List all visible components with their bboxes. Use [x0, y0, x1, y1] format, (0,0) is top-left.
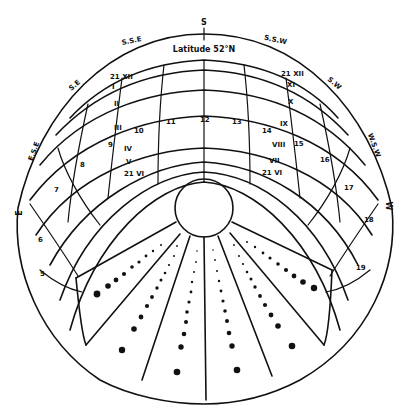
compass-s: S — [201, 18, 207, 27]
compass-sw: S.W — [326, 75, 343, 91]
hour-label-12: 12 — [200, 116, 210, 124]
month-label-iii: III — [114, 124, 122, 132]
hour-label-11: 11 — [166, 118, 176, 126]
hour-label-7: 7 — [54, 186, 59, 194]
hour-label-10: 10 — [134, 127, 144, 135]
compass-w: W — [384, 202, 393, 211]
month-label-21-xii-left: 21 XII — [110, 73, 133, 81]
hour-label-6: 6 — [38, 236, 43, 244]
hour-label-5: 5 — [40, 270, 45, 278]
month-label-v: V — [126, 158, 132, 166]
hour-label-18: 18 — [364, 216, 374, 224]
hour-label-15: 15 — [294, 140, 304, 148]
hour-label-16: 16 — [320, 156, 330, 164]
hour-label-19: 19 — [356, 264, 366, 272]
hour-label-17: 17 — [344, 184, 354, 192]
compass-se: S.E — [67, 78, 82, 92]
compass-wsw: W.S.W — [366, 132, 382, 159]
zenith-circle — [175, 179, 233, 237]
sun-path-diagram: Latitude 52°N S S.S.E S.S.W S.E S.W E.S.… — [0, 0, 408, 410]
month-label-ix: IX — [280, 120, 289, 128]
hour-label-8: 8 — [80, 161, 85, 169]
hour-label-9: 9 — [108, 141, 113, 149]
compass-e: E — [15, 210, 24, 215]
month-label-ii: II — [114, 100, 119, 108]
hour-label-14: 14 — [262, 127, 272, 135]
month-label-iv: IV — [124, 145, 133, 153]
compass-ssw: S.S.W — [263, 34, 288, 47]
month-label-xi: XI — [287, 81, 295, 89]
compass-ese: E.S.E — [27, 140, 41, 162]
month-label-x: X — [288, 98, 294, 106]
month-label-i: I — [112, 83, 115, 91]
month-label-21-xii-right: 21 XII — [281, 70, 304, 78]
month-label-21-vi-right: 21 VI — [262, 169, 282, 177]
month-label-vii: VII — [269, 157, 280, 165]
month-label-viii: VIII — [272, 141, 285, 149]
hour-label-13: 13 — [232, 118, 242, 126]
latitude-title: Latitude 52°N — [173, 45, 235, 54]
month-label-21-vi-left: 21 VI — [124, 170, 144, 178]
compass-sse: S.S.E — [121, 35, 143, 47]
